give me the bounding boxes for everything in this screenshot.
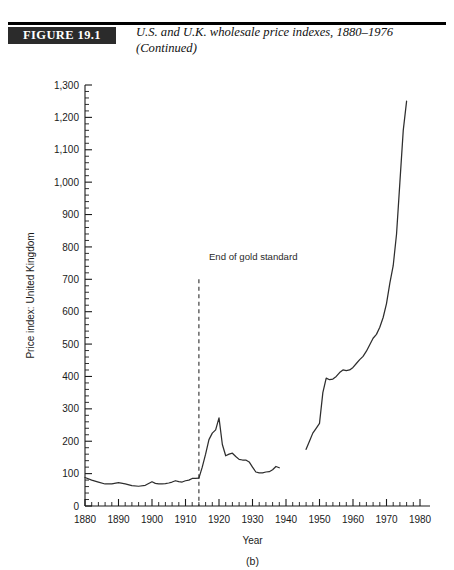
x-tick-label: 1950 (308, 514, 331, 525)
gold-standard-annotation-label: End of gold standard (209, 251, 298, 262)
chart-annotations: End of gold standard (199, 251, 298, 506)
y-tick-label: 1,000 (54, 177, 79, 188)
x-tick-label: 1890 (107, 514, 130, 525)
x-tick-label: 1960 (342, 514, 365, 525)
y-tick-label: 1,300 (54, 80, 79, 91)
line-chart: 01002003004005006007008009001,0001,1001,… (0, 66, 454, 570)
x-tick-label: 1970 (375, 514, 398, 525)
y-tick-label: 0 (73, 501, 79, 512)
x-tick-label: 1940 (275, 514, 298, 525)
x-tick-label: 1920 (208, 514, 231, 525)
x-axis: 1880189019001910192019301940195019601970… (74, 499, 432, 525)
y-tick-label: 700 (62, 274, 79, 285)
y-tick-label: 1,100 (54, 144, 79, 155)
x-tick-label: 1880 (74, 514, 97, 525)
y-axis: 01002003004005006007008009001,0001,1001,… (54, 80, 92, 512)
x-tick-label: 1980 (409, 514, 432, 525)
figure-caption: U.S. and U.K. wholesale price indexes, 1… (136, 25, 436, 56)
y-tick-label: 800 (62, 242, 79, 253)
y-axis-title: Price index: United Kingdom (25, 232, 36, 358)
series-segment-line (199, 418, 279, 478)
x-axis-title: Year (242, 535, 263, 546)
y-tick-label: 600 (62, 306, 79, 317)
x-tick-label: 1930 (241, 514, 264, 525)
chart-container: 01002003004005006007008009001,0001,1001,… (0, 66, 454, 570)
series-segment-line (306, 101, 407, 449)
y-tick-label: 400 (62, 371, 79, 382)
y-tick-label: 1,200 (54, 112, 79, 123)
figure-number-badge: FIGURE 19.1 (8, 27, 116, 44)
figure-caption-line-2: (Continued) (136, 41, 436, 57)
figure-header: FIGURE 19.1 U.S. and U.K. wholesale pric… (0, 22, 454, 66)
y-tick-label: 300 (62, 403, 79, 414)
x-tick-label: 1900 (141, 514, 164, 525)
panel-label: (b) (246, 555, 259, 567)
y-tick-label: 900 (62, 209, 79, 220)
y-tick-label: 100 (62, 468, 79, 479)
y-tick-label: 500 (62, 339, 79, 350)
data-series-uk (85, 101, 407, 486)
figure-caption-line-1: U.S. and U.K. wholesale price indexes, 1… (136, 25, 436, 41)
series-segment-line (85, 478, 199, 487)
y-tick-label: 200 (62, 436, 79, 447)
x-tick-label: 1910 (174, 514, 197, 525)
